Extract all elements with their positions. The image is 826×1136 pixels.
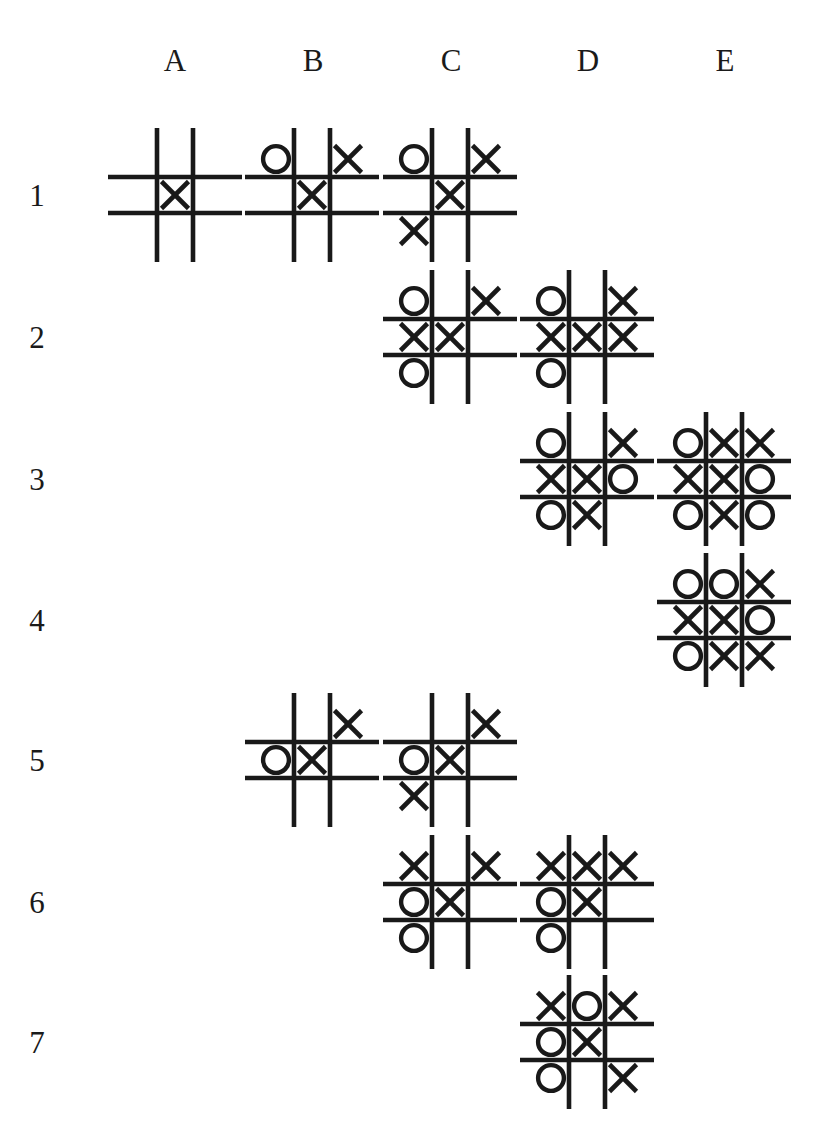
board-c5[interactable]	[396, 706, 504, 814]
mark-x	[711, 643, 738, 670]
mark-x	[299, 747, 326, 774]
column-header-b: B	[283, 44, 343, 78]
mark-o	[675, 430, 701, 456]
mark-o	[675, 571, 701, 597]
mark-x	[401, 783, 428, 810]
mark-o	[538, 430, 564, 456]
board-c2[interactable]	[396, 283, 504, 391]
board-c1[interactable]	[396, 141, 504, 249]
row-header-3: 3	[14, 463, 60, 497]
column-header-a: A	[145, 44, 205, 78]
mark-x	[473, 146, 500, 173]
mark-x	[747, 430, 774, 457]
mark-x	[711, 466, 738, 493]
mark-x	[675, 466, 702, 493]
mark-x	[538, 324, 565, 351]
board-d7[interactable]	[533, 988, 641, 1096]
mark-x	[610, 993, 637, 1020]
mark-o	[401, 889, 427, 915]
mark-x	[610, 1065, 637, 1092]
mark-x	[473, 853, 500, 880]
mark-x	[574, 324, 601, 351]
mark-o	[401, 288, 427, 314]
mark-x	[335, 711, 362, 738]
mark-x	[711, 502, 738, 529]
mark-x	[574, 1029, 601, 1056]
mark-x	[574, 853, 601, 880]
mark-o	[747, 502, 773, 528]
mark-x	[401, 324, 428, 351]
mark-x	[610, 288, 637, 315]
mark-x	[711, 607, 738, 634]
mark-o	[675, 502, 701, 528]
mark-x	[299, 182, 326, 209]
row-header-1: 1	[14, 179, 60, 213]
mark-o	[675, 643, 701, 669]
mark-o	[538, 1029, 564, 1055]
mark-x	[401, 218, 428, 245]
mark-x	[610, 853, 637, 880]
mark-x	[162, 182, 189, 209]
board-d2[interactable]	[533, 283, 641, 391]
board-b1[interactable]	[258, 141, 366, 249]
mark-o	[401, 360, 427, 386]
mark-x	[574, 466, 601, 493]
board-d6[interactable]	[533, 848, 641, 956]
mark-x	[538, 993, 565, 1020]
mark-x	[437, 324, 464, 351]
mark-o	[263, 747, 289, 773]
board-c6[interactable]	[396, 848, 504, 956]
board-a1[interactable]	[121, 141, 229, 249]
mark-x	[747, 571, 774, 598]
mark-o	[538, 925, 564, 951]
board-e3[interactable]	[670, 425, 778, 533]
tictactoe-grid-figure: ABCDE 1234567	[0, 0, 826, 1136]
column-header-d: D	[558, 44, 618, 78]
mark-x	[473, 288, 500, 315]
mark-o	[538, 889, 564, 915]
mark-x	[473, 711, 500, 738]
row-header-4: 4	[14, 604, 60, 638]
mark-x	[675, 607, 702, 634]
mark-x	[437, 889, 464, 916]
row-header-5: 5	[14, 744, 60, 778]
board-b5[interactable]	[258, 706, 366, 814]
mark-o	[401, 747, 427, 773]
mark-o	[538, 1065, 564, 1091]
mark-x	[538, 466, 565, 493]
mark-o	[538, 288, 564, 314]
row-header-2: 2	[14, 321, 60, 355]
mark-o	[747, 466, 773, 492]
mark-o	[538, 360, 564, 386]
column-header-e: E	[695, 44, 755, 78]
board-e4[interactable]	[670, 566, 778, 674]
mark-x	[711, 430, 738, 457]
mark-o	[538, 502, 564, 528]
mark-x	[538, 853, 565, 880]
row-header-6: 6	[14, 886, 60, 920]
mark-x	[335, 146, 362, 173]
mark-o	[711, 571, 737, 597]
mark-o	[610, 466, 636, 492]
mark-o	[747, 607, 773, 633]
board-d3[interactable]	[533, 425, 641, 533]
mark-x	[574, 889, 601, 916]
mark-o	[263, 146, 289, 172]
mark-x	[610, 430, 637, 457]
mark-o	[574, 993, 600, 1019]
mark-x	[437, 182, 464, 209]
mark-x	[401, 853, 428, 880]
mark-x	[574, 502, 601, 529]
mark-x	[610, 324, 637, 351]
mark-o	[401, 146, 427, 172]
row-header-7: 7	[14, 1026, 60, 1060]
mark-x	[747, 643, 774, 670]
column-header-c: C	[421, 44, 481, 78]
mark-o	[401, 925, 427, 951]
mark-x	[437, 747, 464, 774]
